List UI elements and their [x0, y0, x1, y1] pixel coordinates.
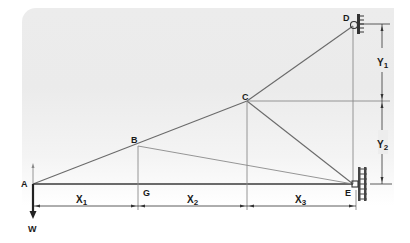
label-g: G [143, 188, 150, 198]
y1-arrow-top-icon [381, 26, 384, 31]
x1-arrow-left-icon [35, 205, 40, 208]
x2-arrow-left-icon [140, 205, 145, 208]
member-c-e [247, 101, 353, 184]
a-extension-arrow-icon [32, 163, 35, 168]
truss-diagram: A B C D E G W X1 X2 X3 Y1 Y2 [0, 0, 410, 243]
support-d [351, 14, 365, 34]
label-c: C [242, 92, 249, 102]
x3-arrow-right-icon [349, 205, 354, 208]
label-e: E [345, 188, 351, 198]
label-w: W [28, 224, 37, 234]
x2-arrow-right-icon [240, 205, 245, 208]
support-e [352, 167, 367, 201]
member-b-e [138, 146, 353, 184]
label-d: D [343, 13, 350, 23]
load-w [30, 184, 37, 219]
x3-arrow-left-icon [249, 205, 254, 208]
member-c-d [247, 26, 353, 101]
y2-arrow-top-icon [381, 103, 384, 108]
label-x3: X3 [295, 194, 307, 207]
label-a: A [21, 179, 28, 189]
x1-arrow-right-icon [131, 205, 136, 208]
vertical-dimensions [378, 24, 388, 184]
label-x1: X1 [76, 194, 88, 207]
load-arrow-head-icon [30, 211, 37, 219]
pin-d-icon [351, 22, 358, 29]
reference-lines [32, 24, 393, 210]
label-x2: X2 [187, 194, 199, 207]
y1-arrow-bottom-icon [381, 94, 384, 99]
y2-arrow-bottom-icon [381, 177, 384, 182]
diagram-canvas: A B C D E G W X1 X2 X3 Y1 Y2 [0, 0, 410, 243]
label-b: B [131, 135, 138, 145]
member-a-c [33, 101, 247, 184]
truss-members [33, 26, 353, 184]
